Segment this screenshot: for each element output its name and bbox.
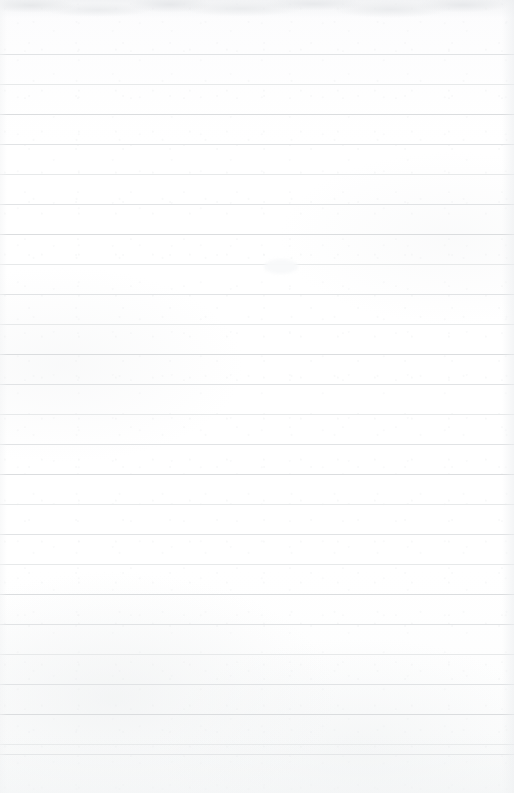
ruled-line	[0, 84, 514, 85]
ruled-line	[0, 204, 514, 205]
ruled-line	[0, 144, 514, 145]
ruled-lines-group	[0, 0, 514, 793]
ruled-line	[0, 504, 514, 505]
ruled-line	[0, 384, 514, 385]
ruled-line	[0, 54, 514, 55]
ruled-line	[0, 444, 514, 445]
ruled-line	[0, 354, 514, 355]
bottom-edge-shadow	[0, 733, 514, 793]
notebook-page	[0, 0, 514, 793]
right-edge-shadow	[502, 0, 514, 793]
ruled-line	[0, 234, 514, 235]
ruled-line	[0, 174, 514, 175]
line-break-smudge-halo	[264, 259, 298, 274]
ruled-line	[0, 474, 514, 475]
ruled-line	[0, 594, 514, 595]
ruled-line	[0, 624, 514, 625]
left-edge-shadow	[0, 0, 7, 793]
top-edge-shadow	[0, 0, 514, 18]
ruled-line	[0, 414, 514, 415]
ruled-line	[0, 294, 514, 295]
ruled-line	[0, 534, 514, 535]
ruled-line	[0, 564, 514, 565]
ruled-line	[0, 654, 514, 655]
ruled-line	[0, 684, 514, 685]
ruled-line	[0, 324, 514, 325]
ruled-line	[0, 264, 514, 265]
ruled-line	[0, 714, 514, 715]
ruled-line	[0, 114, 514, 115]
